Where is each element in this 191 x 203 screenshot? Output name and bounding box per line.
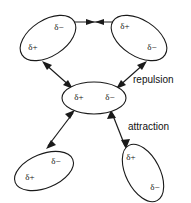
dipole-outline-bottom-right <box>114 138 172 203</box>
dipole-outline-top-left <box>12 6 84 70</box>
force-arrow-center-to-bottom-left <box>46 110 75 149</box>
attraction-label: attraction <box>128 121 169 132</box>
arrowhead-top-mid-left <box>86 19 95 25</box>
charge-label-positive: δ+ <box>28 42 37 52</box>
charge-label-positive: δ+ <box>74 92 83 102</box>
dipole-bottom-left: δ+ δ− <box>9 144 79 199</box>
charge-label-negative: δ− <box>150 182 159 192</box>
diagram-canvas: δ+ δ− δ+ δ− δ+ δ− δ+ δ− δ+ δ− repulsion … <box>0 0 191 203</box>
charge-label-negative: δ− <box>51 156 60 166</box>
charge-label-negative: δ− <box>105 92 114 102</box>
force-arrow-center-to-bottom-right <box>107 110 130 149</box>
dipole-interaction-diagram: δ+ δ− δ+ δ− δ+ δ− δ+ δ− δ+ δ− repulsion … <box>0 0 191 203</box>
dipole-center: δ+ δ− <box>62 82 126 114</box>
repulsion-label: repulsion <box>133 74 174 85</box>
dipole-top-right: δ+ δ− <box>103 6 175 70</box>
arrowhead-down-left-lower <box>46 140 56 149</box>
arrowhead-up-right-lower <box>65 110 75 119</box>
arrowhead-top-mid-right <box>95 19 104 25</box>
dipole-bottom-right: δ+ δ− <box>114 138 172 203</box>
dipole-outline-top-right <box>103 6 175 70</box>
charge-label-positive: δ+ <box>126 152 135 162</box>
charge-label-negative: δ− <box>147 42 156 52</box>
force-arrow-center-to-top-left <box>42 61 73 89</box>
charge-label-negative: δ− <box>54 22 63 32</box>
charge-label-positive: δ+ <box>25 172 34 182</box>
dipole-top-left: δ+ δ− <box>12 6 84 70</box>
dipole-outline-bottom-left <box>9 144 79 199</box>
dipole-outline-center <box>62 82 126 114</box>
charge-label-positive: δ+ <box>120 21 129 31</box>
